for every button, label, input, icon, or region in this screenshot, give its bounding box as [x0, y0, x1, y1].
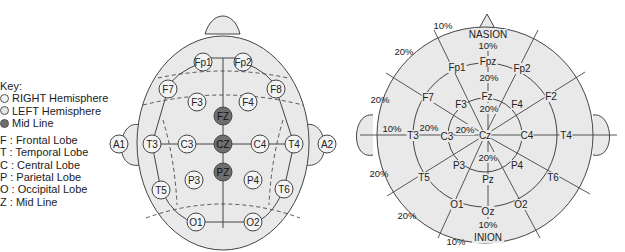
svg-text:T3: T3 [146, 139, 158, 150]
svg-text:F8: F8 [270, 84, 282, 95]
electrode-a1: A1 [110, 135, 128, 153]
svg-text:O2: O2 [246, 217, 260, 228]
electrode-t4: T4 [285, 135, 303, 153]
electrode-t5: T5 [418, 172, 430, 183]
percent-label: 20% [455, 124, 475, 135]
percent-label: 20% [479, 103, 499, 114]
electrode-fp2: Fp2 [234, 53, 252, 71]
electrode-p3: P3 [453, 160, 466, 171]
electrode-t6: T6 [275, 180, 293, 198]
electrode-oz: Oz [482, 206, 495, 217]
electrode-t5: T5 [152, 181, 170, 199]
percent-label: 20% [397, 210, 417, 221]
electrode-fz: FZ [214, 107, 232, 125]
percent-label: 20% [478, 152, 498, 163]
landmark-nasion: NASION [469, 29, 507, 40]
svg-text:Fp2: Fp2 [234, 57, 252, 68]
percent-label: 10% [446, 236, 466, 247]
electrode-fp1: Fp1 [194, 53, 212, 71]
electrode-c4: C4 [251, 135, 269, 153]
electrode-f4: F4 [239, 93, 257, 111]
electrode-cz: Cz [479, 130, 491, 141]
left-head-diagram: Fp1Fp2F7F8F3F4FZA1T3C3CZC4T4A2PZP3P4T5T6… [110, 16, 336, 250]
svg-text:T4: T4 [288, 139, 300, 150]
electrode-c3: C3 [441, 131, 454, 142]
svg-text:FZ: FZ [217, 111, 229, 122]
percent-label: 10% [433, 20, 453, 31]
percent-label: 20% [370, 94, 390, 105]
svg-text:A2: A2 [321, 139, 334, 150]
svg-text:F4: F4 [242, 97, 254, 108]
eeg-diagrams: Fp1Fp2F7F8F3F4FZA1T3C3CZC4T4A2PZP3P4T5T6… [0, 0, 625, 252]
svg-text:P3: P3 [188, 175, 201, 186]
electrode-pz: Pz [482, 174, 494, 185]
electrode-o2: O2 [244, 213, 262, 231]
svg-text:A1: A1 [113, 139, 126, 150]
landmark-inion: INION [474, 232, 502, 243]
percent-label: 10% [478, 219, 498, 230]
electrode-f2: F2 [545, 91, 557, 102]
electrode-a2: A2 [318, 135, 336, 153]
percent-label: 10% [382, 123, 402, 134]
electrode-cz: CZ [214, 135, 232, 153]
nose [205, 16, 240, 34]
percent-label: 20% [419, 122, 439, 133]
electrode-c3: C3 [178, 135, 196, 153]
percent-label: 20% [369, 168, 389, 179]
svg-text:C4: C4 [254, 139, 267, 150]
electrode-fp2: Fp2 [513, 63, 531, 74]
electrode-t3: T3 [143, 135, 161, 153]
electrode-fp1: Fp1 [448, 62, 466, 73]
svg-text:P4: P4 [247, 175, 260, 186]
electrode-t4: T4 [560, 130, 572, 141]
percent-label: 20% [479, 72, 499, 83]
svg-text:O1: O1 [189, 217, 203, 228]
electrode-f7: F7 [159, 80, 177, 98]
electrode-p4: P4 [244, 171, 262, 189]
electrode-p4: P4 [511, 160, 524, 171]
svg-text:T5: T5 [155, 185, 167, 196]
electrode-t3: T3 [407, 130, 419, 141]
electrode-fpz: Fpz [480, 56, 497, 67]
svg-text:PZ: PZ [217, 167, 230, 178]
electrode-fz: Fz [481, 91, 492, 102]
svg-text:C3: C3 [181, 139, 194, 150]
svg-text:T6: T6 [278, 184, 290, 195]
electrode-f3: F3 [455, 99, 467, 110]
electrode-c4: C4 [521, 130, 534, 141]
electrode-o1: O1 [187, 213, 205, 231]
electrode-pz: PZ [214, 163, 232, 181]
electrode-f7: F7 [422, 92, 434, 103]
percent-label: 20% [394, 46, 414, 57]
electrode-o2: O2 [514, 199, 528, 210]
svg-text:CZ: CZ [216, 139, 229, 150]
electrode-f3: F3 [188, 93, 206, 111]
percent-label: 10% [478, 40, 498, 51]
electrode-f4: F4 [511, 99, 523, 110]
electrode-f8: F8 [267, 80, 285, 98]
right-head-diagram: NASIONINIONFpzFp1Fp2F7F3FzF4F2T3C3CzC4T4… [356, 14, 617, 247]
electrode-t6: T6 [547, 172, 559, 183]
electrode-o1: O1 [450, 199, 464, 210]
svg-text:Fp1: Fp1 [194, 57, 212, 68]
svg-text:F7: F7 [162, 84, 174, 95]
svg-text:F3: F3 [191, 97, 203, 108]
electrode-p3: P3 [185, 171, 203, 189]
